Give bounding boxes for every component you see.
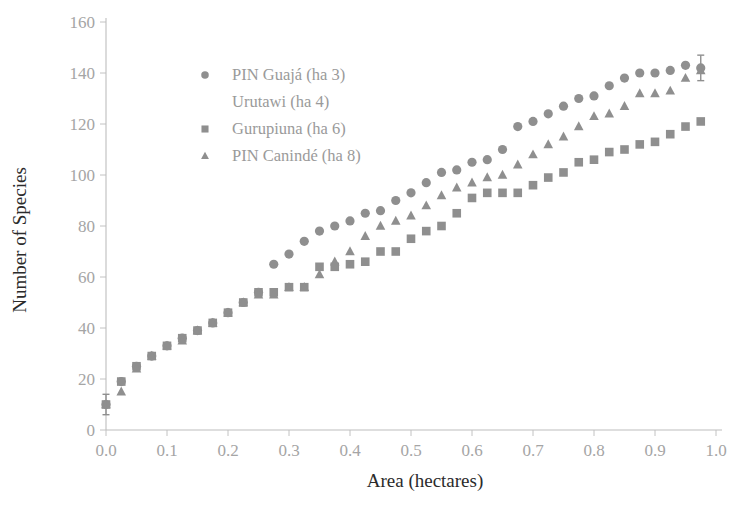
x-tick-label: 0.6 (461, 441, 482, 460)
x-tick-label: 1.0 (705, 441, 726, 460)
data-point (346, 260, 355, 269)
data-point (452, 183, 462, 192)
data-point (116, 387, 126, 396)
data-point (696, 117, 705, 126)
data-point (513, 160, 523, 169)
data-point (559, 102, 568, 111)
data-point (574, 158, 583, 167)
data-point (345, 216, 354, 225)
data-point (620, 101, 630, 110)
y-tick-label: 140 (70, 64, 96, 83)
y-tick-label: 40 (78, 319, 95, 338)
data-point (391, 196, 400, 205)
data-point (117, 377, 126, 386)
data-point (330, 221, 339, 230)
data-point (330, 257, 340, 266)
data-point (467, 158, 476, 167)
y-tick-label: 80 (78, 217, 95, 236)
data-point (513, 189, 522, 198)
legend-label: Gurupiuna (ha 6) (232, 119, 346, 138)
data-point (620, 145, 629, 154)
data-point (361, 209, 370, 218)
data-point (300, 237, 309, 246)
data-point (650, 68, 659, 77)
data-point (666, 66, 675, 75)
data-point (544, 109, 553, 118)
data-point (467, 177, 477, 186)
x-axis-ticks: 0.00.10.20.30.40.50.60.70.80.91.0 (95, 430, 726, 460)
data-point (407, 234, 416, 243)
data-point (483, 155, 492, 164)
data-point (437, 168, 446, 177)
data-point (529, 181, 538, 190)
legend-label: PIN Guajá (ha 3) (232, 65, 345, 84)
data-point (422, 227, 431, 236)
legend-marker-square (201, 125, 208, 132)
y-tick-label: 20 (78, 370, 95, 389)
data-point (468, 194, 477, 203)
data-point (528, 149, 538, 158)
legend-label: Urutawi (ha 4) (232, 92, 329, 111)
data-point (589, 91, 598, 100)
x-tick-label: 0.9 (644, 441, 665, 460)
data-point (513, 122, 522, 131)
legend-label: PIN Canindé (ha 8) (232, 146, 361, 165)
y-tick-label: 60 (78, 268, 95, 287)
series-circle (101, 61, 705, 409)
data-point (635, 88, 645, 97)
data-point (574, 121, 584, 130)
figure-container: 020406080100120140160 0.00.10.20.30.40.5… (0, 0, 756, 511)
data-point (376, 247, 385, 256)
data-point (482, 172, 492, 181)
y-tick-label: 100 (70, 166, 96, 185)
data-point (376, 206, 385, 215)
data-point (681, 122, 690, 131)
data-point (651, 138, 660, 147)
x-tick-label: 0.3 (278, 441, 299, 460)
x-tick-label: 0.2 (217, 441, 238, 460)
data-point (528, 117, 537, 126)
y-axis-title: Number of Species (9, 167, 30, 313)
data-point (559, 132, 569, 141)
data-point (635, 140, 644, 149)
y-tick-label: 160 (70, 13, 96, 32)
x-tick-label: 0.7 (522, 441, 544, 460)
data-point (590, 155, 599, 164)
data-point (574, 94, 583, 103)
data-point (421, 200, 431, 209)
data-point (315, 227, 324, 236)
data-point (604, 109, 614, 118)
legend-marker-circle (201, 71, 209, 79)
data-point (406, 211, 416, 220)
data-point (605, 81, 614, 90)
data-point (605, 148, 614, 157)
series-square (102, 117, 705, 409)
data-point (666, 130, 675, 139)
legend: PIN Guajá (ha 3)Urutawi (ha 4)Gurupiuna … (201, 65, 361, 165)
legend-marker-triangle (201, 152, 209, 159)
data-point (620, 74, 629, 83)
data-point (544, 173, 553, 182)
data-point (345, 246, 355, 255)
y-tick-label: 0 (87, 421, 96, 440)
data-point (437, 222, 446, 231)
data-point (452, 165, 461, 174)
data-point (391, 216, 401, 225)
data-point (635, 68, 644, 77)
data-series-group (101, 61, 705, 409)
data-point (284, 249, 293, 258)
error-bars-group (103, 55, 705, 415)
x-tick-label: 0.1 (156, 441, 177, 460)
x-tick-label: 0.5 (400, 441, 421, 460)
data-point (589, 111, 599, 120)
y-axis-ticks: 020406080100120140160 (70, 13, 107, 440)
data-point (650, 88, 660, 97)
plot-area: 020406080100120140160 0.00.10.20.30.40.5… (70, 13, 727, 460)
species-area-chart: 020406080100120140160 0.00.10.20.30.40.5… (0, 0, 756, 511)
data-point (406, 188, 415, 197)
data-point (361, 257, 370, 266)
data-point (437, 190, 447, 199)
data-point (376, 221, 386, 230)
data-point (391, 247, 400, 256)
data-point (269, 260, 278, 269)
